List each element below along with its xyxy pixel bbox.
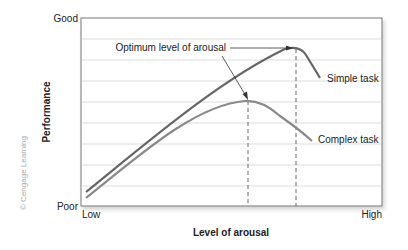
y-tick-poor: Poor: [57, 201, 79, 212]
complex-task-label: Complex task: [318, 134, 380, 145]
x-tick-high: High: [361, 209, 382, 220]
x-tick-low: Low: [82, 209, 101, 220]
y-tick-good: Good: [54, 13, 78, 24]
x-axis-label: Level of arousal: [193, 227, 269, 238]
simple-task-label: Simple task: [327, 73, 380, 84]
arousal-performance-chart: Good Poor Low High Level of arousal Perf…: [0, 0, 408, 250]
y-axis-label: Performance: [41, 81, 52, 143]
copyright-credit: © Cengage Learning: [19, 136, 28, 210]
annotation-label: Optimum level of arousal: [115, 42, 226, 53]
